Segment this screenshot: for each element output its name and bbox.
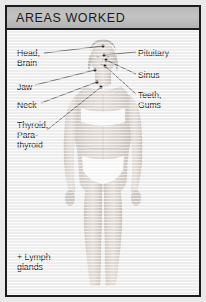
label-teeth-gums: Teeth, Gums bbox=[138, 90, 161, 110]
label-head-brain: Head, Brain bbox=[17, 48, 40, 68]
label-neck: Neck bbox=[17, 100, 37, 110]
page-title: AREAS WORKED bbox=[16, 11, 125, 25]
label-thyroid-parathyroid: Thyroid, Para- thyroid bbox=[17, 120, 48, 151]
label-pituitary: Pituitary bbox=[138, 48, 169, 58]
areas-worked-poster: AREAS WORKED bbox=[0, 0, 206, 302]
diagram-pane: Head, Brain Jaw Neck Thyroid, Para- thyr… bbox=[7, 30, 199, 295]
footnote-lymph-glands: + Lymph glands bbox=[17, 252, 51, 273]
marker-dots bbox=[94, 45, 108, 89]
label-jaw: Jaw bbox=[17, 82, 32, 92]
label-sinus: Sinus bbox=[138, 70, 160, 80]
title-band: AREAS WORKED bbox=[7, 7, 199, 30]
